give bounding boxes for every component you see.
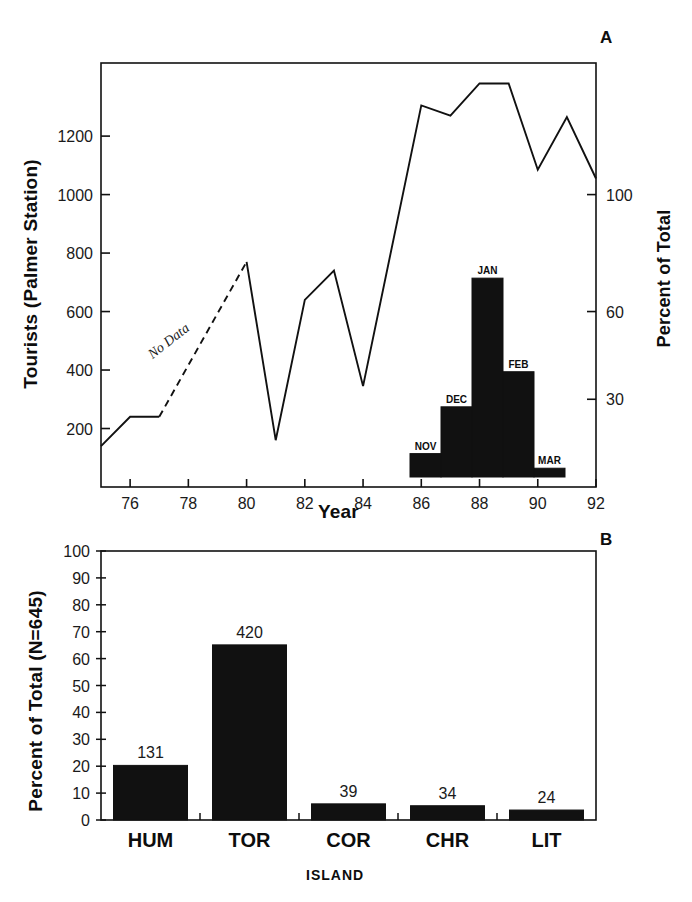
inset-bar-nov [410,454,441,477]
y-tick-label: 20 [72,758,90,775]
y-tick-label: 30 [72,731,90,748]
x-tick-label: 86 [412,495,430,512]
inset-bar-label-jan: JAN [477,265,497,276]
y-tick-label: 0 [81,812,90,829]
y-tick-label: 800 [66,245,93,262]
island-bar-tor [213,645,287,820]
panel-a-letter: A [600,28,612,48]
island-bar-count-tor: 420 [236,624,263,641]
inset-bar-label-dec: DEC [446,394,467,405]
inset-bar-label-nov: NOV [415,441,437,452]
island-label-lit: LIT [532,829,562,851]
panel-a-y-axis-title-right: Percent of Total [654,184,675,374]
x-tick-label: 82 [296,495,314,512]
island-label-chr: CHR [426,829,470,851]
tourist-line-segment-2 [247,83,596,440]
y-tick-label: 80 [72,597,90,614]
panel-a-y-tick-labels: 20040060080010001200 [57,128,93,437]
island-bar-chr [411,806,485,820]
inset-bar-jan [472,278,503,477]
y-tick-label: 40 [72,704,90,721]
panel-a-x-tick-labels: 767880828486889092 [121,495,605,512]
island-label-cor: COR [326,829,371,851]
panel-b-x-axis-title: ISLAND [306,867,364,883]
figure-container: A Tourists (Palmer Station) Percent of T… [0,0,692,902]
y-tick-label: 50 [72,678,90,695]
panel-b-letter: B [600,530,612,550]
y-tick-label: 90 [72,570,90,587]
panel-b-y-tick-labels: 0102030405060708090100 [63,543,90,829]
y-tick-label: 60 [72,651,90,668]
x-tick-label: 80 [238,495,256,512]
panel-a-y-tick-labels-right: 3060100 [606,187,633,409]
island-label-hum: HUM [128,829,174,851]
y-tick-label: 600 [66,304,93,321]
inset-bar-label-feb: FEB [509,359,529,370]
y-tick-label: 1000 [57,187,93,204]
island-bar-value-labels: 131420393424 [137,624,555,806]
island-category-labels: HUMTORCORCHRLIT [128,829,562,851]
panel-a-y-ticks [101,136,110,428]
y-tick-label-right: 30 [606,391,624,408]
island-label-tor: TOR [229,829,271,851]
y-tick-label: 400 [66,362,93,379]
y-tick-label: 10 [72,785,90,802]
y-tick-label-right: 100 [606,187,633,204]
tourist-line-segment-0 [101,417,159,446]
y-tick-label: 200 [66,421,93,438]
island-bar-count-chr: 34 [439,785,457,802]
island-bar-lit [510,810,584,820]
x-tick-label: 90 [529,495,547,512]
panel-b-y-axis-title: Percent of Total (N=645) [25,556,47,846]
panel-a-y-axis-title: Tourists (Palmer Station) [20,149,42,399]
panel-a-y-ticks-right [587,195,596,400]
inset-bar-label-mar: MAR [538,455,562,466]
island-bar-count-hum: 131 [137,744,164,761]
y-tick-label: 1200 [57,128,93,145]
panel-b: B Percent of Total (N=645) ISLAND 010203… [0,520,692,902]
y-tick-label: 100 [63,543,90,560]
inset-bar-feb [503,372,534,477]
x-tick-label: 76 [121,495,139,512]
inset-bar-mar [534,468,565,477]
x-tick-label: 88 [471,495,489,512]
panel-b-plot: 0102030405060708090100 131420393424 HUMT… [0,520,692,902]
x-tick-label: 78 [179,495,197,512]
island-bar-hum [114,765,188,820]
island-bar-cor [312,804,386,820]
island-bar-count-lit: 24 [538,789,556,806]
y-tick-label: 70 [72,624,90,641]
y-tick-label-right: 60 [606,304,624,321]
island-bar-count-cor: 39 [340,783,358,800]
panel-a-x-ticks [130,479,596,487]
panel-a-plot: 767880828486889092 20040060080010001200 … [0,0,692,520]
inset-bar-dec [441,407,472,477]
x-tick-label: 92 [587,495,605,512]
panel-a: A Tourists (Palmer Station) Percent of T… [0,0,692,520]
